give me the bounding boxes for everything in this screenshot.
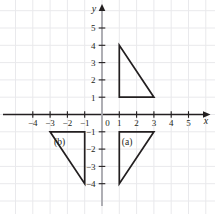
x-tick-label: 5: [186, 118, 191, 128]
plot-background: [0, 0, 215, 214]
y-tick-label: 3: [91, 58, 96, 68]
y-tick-label: 4: [91, 41, 96, 51]
y-axis-label: y: [91, 3, 97, 14]
y-tick-label: −2: [86, 144, 96, 154]
x-tick-label: 3: [152, 118, 157, 128]
y-tick-label: 5: [91, 23, 96, 33]
coordinate-plane-figure: −4−3−2−1012345 54321−1−2−3−4 x y (a)(b): [0, 0, 215, 214]
y-tick-label: −4: [86, 179, 96, 189]
y-tick-label: −3: [86, 162, 96, 172]
x-tick-label: 2: [134, 118, 139, 128]
x-axis-label: x: [203, 115, 209, 126]
triangle-a-label: (a): [122, 137, 133, 148]
y-tick-label: 2: [91, 75, 96, 85]
y-tick-label: 1: [91, 93, 96, 103]
origin-label: 0: [105, 118, 110, 128]
triangle-b-label: (b): [54, 137, 65, 148]
x-tick-label: −4: [28, 118, 38, 128]
y-tick-label: −1: [86, 127, 96, 137]
x-tick-label: 1: [117, 118, 122, 128]
x-tick-label: 4: [169, 118, 174, 128]
x-tick-label: −3: [45, 118, 55, 128]
plot-svg: −4−3−2−1012345 54321−1−2−3−4 x y (a)(b): [0, 0, 215, 214]
x-tick-label: −2: [63, 118, 73, 128]
